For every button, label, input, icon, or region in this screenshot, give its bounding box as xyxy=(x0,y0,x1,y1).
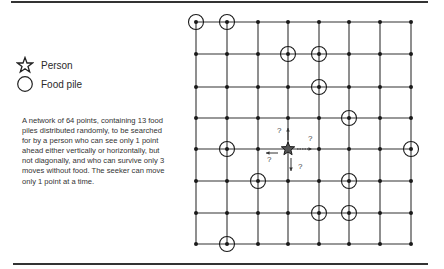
grid-point xyxy=(409,85,413,89)
grid-point xyxy=(225,211,229,215)
grid-point xyxy=(409,20,413,24)
grid-point xyxy=(378,85,382,89)
grid-point xyxy=(256,179,260,183)
grid-point xyxy=(225,179,229,183)
grid-point xyxy=(286,116,290,120)
grid-point xyxy=(409,211,413,215)
arrow-right-label: ? xyxy=(308,134,313,143)
grid-point xyxy=(225,242,229,246)
grid-point xyxy=(378,242,382,246)
grid-point xyxy=(317,116,321,120)
grid-point xyxy=(194,52,198,56)
grid-point xyxy=(409,147,413,151)
network-grid: ???? xyxy=(0,0,444,269)
arrow-left-label: ? xyxy=(267,155,272,164)
grid-point xyxy=(347,116,351,120)
grid-point xyxy=(378,116,382,120)
grid-point xyxy=(409,179,413,183)
grid-point xyxy=(317,85,321,89)
grid-point xyxy=(194,116,198,120)
grid-point xyxy=(256,52,260,56)
grid-point xyxy=(347,52,351,56)
arrow-down-icon xyxy=(289,168,293,172)
grid-point xyxy=(347,242,351,246)
grid-point xyxy=(378,147,382,151)
grid-point xyxy=(347,179,351,183)
grid-point xyxy=(194,20,198,24)
grid-point xyxy=(256,116,260,120)
grid-point xyxy=(194,242,198,246)
grid-point xyxy=(378,20,382,24)
grid-point xyxy=(286,179,290,183)
grid-point xyxy=(409,116,413,120)
grid-point xyxy=(317,20,321,24)
grid-point xyxy=(256,242,260,246)
grid-point xyxy=(378,179,382,183)
grid-point xyxy=(194,147,198,151)
grid-point xyxy=(378,211,382,215)
grid-point xyxy=(194,179,198,183)
grid-point xyxy=(317,52,321,56)
grid-point xyxy=(256,85,260,89)
grid-point xyxy=(317,211,321,215)
grid-point xyxy=(256,211,260,215)
grid-point xyxy=(286,242,290,246)
grid-point xyxy=(286,85,290,89)
grid-point xyxy=(256,147,260,151)
grid-point xyxy=(286,211,290,215)
grid-point xyxy=(256,20,260,24)
grid-point xyxy=(286,52,290,56)
grid-point xyxy=(194,211,198,215)
arrow-right-icon xyxy=(309,147,313,151)
grid-point xyxy=(347,147,351,151)
grid-point xyxy=(317,147,321,151)
grid-point xyxy=(225,52,229,56)
grid-point xyxy=(347,20,351,24)
arrow-down-label: ? xyxy=(298,162,303,171)
grid-point xyxy=(225,20,229,24)
grid-point xyxy=(347,211,351,215)
grid-point xyxy=(378,52,382,56)
grid-point xyxy=(317,242,321,246)
grid-point xyxy=(286,20,290,24)
grid-point xyxy=(409,242,413,246)
arrow-up-icon xyxy=(286,128,290,132)
arrow-up-label: ? xyxy=(277,126,282,135)
grid-point xyxy=(225,85,229,89)
grid-point xyxy=(409,52,413,56)
grid-point xyxy=(225,116,229,120)
grid-point xyxy=(317,179,321,183)
grid-point xyxy=(194,85,198,89)
grid-point xyxy=(225,147,229,151)
grid-point xyxy=(347,85,351,89)
